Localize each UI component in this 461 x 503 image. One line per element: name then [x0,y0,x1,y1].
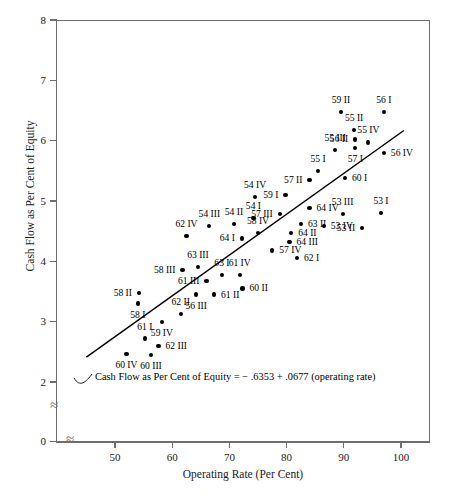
data-point-label: 54 II [225,207,243,217]
data-point-label: 62 IV [175,219,197,229]
data-point-label: 57 II [284,175,302,185]
data-point-label: 53 II [337,223,355,233]
data-point-label: 56 II [330,135,348,145]
data-point-label: 60 III [140,361,162,371]
data-point-label: 59 I [263,190,278,200]
data-point-label: 55 IV [357,126,379,136]
data-point-label: 58 III [154,266,176,276]
data-point-label: 56 I [376,95,391,105]
regression-equation-annotation: Cash Flow as Per Cent of Equity = − .635… [95,371,375,382]
data-point-label: 63 I [214,258,229,268]
data-point-label: 60 IV [115,360,137,370]
data-point-label: 64 III [296,237,318,247]
data-point-label: 58 I [130,310,145,320]
data-point-label: 61 IV [229,258,251,268]
data-point-label: 64 I [220,234,235,244]
data-point-label: 62 III [165,341,187,351]
data-point-label: 55 II [345,113,363,123]
data-point-label: 56 III [185,301,207,311]
data-labels-layer: 60 IV61 I62 III60 III59 IV58 I58 II62 II… [0,0,461,503]
data-point-label: 63 II [308,219,326,229]
data-point-label: 57 I [348,154,363,164]
data-point-label: 59 IV [151,328,173,338]
data-point-label: 57 III [251,209,273,219]
data-point-label: 62 I [304,254,319,264]
data-point-label: 60 II [250,284,268,294]
data-point-label: 59 II [332,95,350,105]
data-point-label: 53 I [373,196,388,206]
data-point-label: 58 II [114,289,132,299]
data-point-label: 61 III [178,276,200,286]
data-point-label: 55 I [310,154,325,164]
data-point-label: 54 III [199,210,221,220]
data-point-label: 56 IV [391,148,413,158]
data-point-label: 60 I [352,173,367,183]
scatter-plot-figure: ≈ ≈ 023456785060708090100 Cash Flow as P… [0,0,461,503]
data-point-label: 63 III [187,251,209,261]
data-point-label: 64 II [298,228,316,238]
data-point-label: 53 III [332,198,354,208]
data-point-label: 61 II [221,290,239,300]
